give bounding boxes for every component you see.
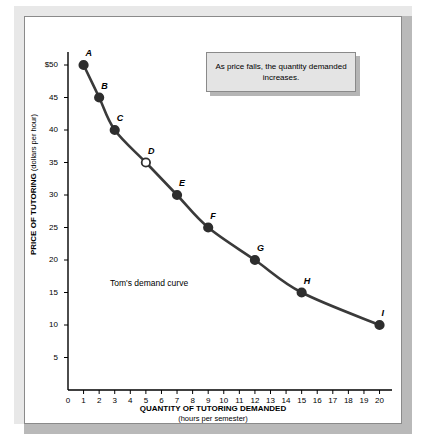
y-tick-label: 20	[28, 255, 58, 264]
y-tick-label: 30	[28, 190, 58, 199]
y-tick-label: 25	[28, 223, 58, 232]
y-axis-title: PRICE OF TUTORING (dollars per hour)	[29, 90, 38, 280]
data-point-marker	[142, 158, 150, 166]
x-tick-label: 3	[108, 396, 122, 405]
data-point-label: B	[101, 81, 108, 91]
y-tick-label: 40	[28, 125, 58, 134]
x-tick-label: 2	[92, 396, 106, 405]
x-tick-label: 1	[77, 396, 91, 405]
x-tick-label: 10	[217, 396, 231, 405]
data-point-label: D	[148, 146, 155, 156]
x-tick-label: 7	[170, 396, 184, 405]
x-tick-label: 16	[310, 396, 324, 405]
curve-annotation-label: Tom's demand curve	[110, 278, 188, 288]
data-point-marker	[95, 93, 103, 101]
y-axis-title-main: PRICE OF TUTORING	[29, 173, 38, 255]
data-point-marker	[173, 191, 181, 199]
data-point-marker	[251, 256, 259, 264]
data-point-label: E	[179, 178, 185, 188]
y-tick-label: 5	[28, 353, 58, 362]
annotation-callout-text: As price falls, the quantity demanded in…	[207, 61, 355, 83]
data-point-marker	[297, 288, 305, 296]
x-tick-label: 18	[341, 396, 355, 405]
data-point-label: A	[86, 48, 93, 58]
data-point-marker	[204, 223, 212, 231]
chart-figure: PRICE OF TUTORING (dollars per hour) QUA…	[0, 0, 428, 441]
x-tick-label: 14	[279, 396, 293, 405]
data-point-label: H	[304, 276, 311, 286]
x-tick-label: 11	[232, 396, 246, 405]
y-tick-label: $50	[28, 60, 58, 69]
x-tick-label: 0	[61, 396, 75, 405]
x-tick-label: 5	[139, 396, 153, 405]
data-point-marker	[79, 61, 87, 69]
data-point-label: G	[257, 243, 264, 253]
x-tick-label: 15	[295, 396, 309, 405]
x-tick-label: 20	[373, 396, 387, 405]
x-tick-label: 9	[201, 396, 215, 405]
y-tick-label: 10	[28, 320, 58, 329]
x-axis-subtitle: (hours per semester)	[24, 414, 402, 423]
annotation-callout: As price falls, the quantity demanded in…	[206, 52, 356, 92]
data-point-label: I	[382, 308, 385, 318]
x-tick-label: 8	[186, 396, 200, 405]
x-tick-label: 13	[264, 396, 278, 405]
x-tick-label: 19	[357, 396, 371, 405]
y-tick-label: 35	[28, 158, 58, 167]
data-point-marker	[375, 321, 383, 329]
x-tick-label: 6	[154, 396, 168, 405]
y-tick-label: 15	[28, 288, 58, 297]
data-point-label: C	[117, 113, 124, 123]
x-tick-label: 4	[123, 396, 137, 405]
x-axis-title: QUANTITY OF TUTORING DEMANDED	[24, 404, 402, 413]
x-tick-label: 12	[248, 396, 262, 405]
x-tick-label: 17	[326, 396, 340, 405]
data-point-label: F	[210, 211, 216, 221]
annotation-callout-body: As price falls, the quantity demanded in…	[206, 52, 356, 92]
y-tick-label: 45	[28, 93, 58, 102]
data-point-marker	[111, 126, 119, 134]
